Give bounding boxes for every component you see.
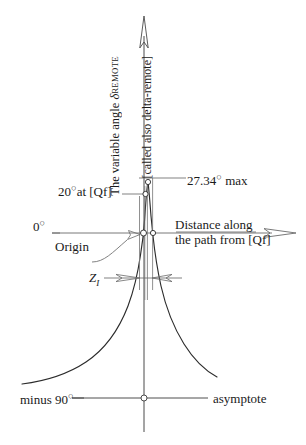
at-qf-value-number: 20 (58, 184, 71, 199)
delta-remote-curve-group (22, 182, 217, 384)
curve-rising-branch (22, 182, 148, 384)
zero-degree-label: 0○ (33, 218, 45, 235)
at-qf-marker-group (122, 191, 148, 196)
y-axis-alt-title: [called also delta-remote] (141, 56, 154, 179)
asymptote-axis-intersection-marker (141, 395, 147, 401)
at-qf-point-marker (143, 191, 148, 196)
asymptote-group (72, 395, 208, 401)
peak-point-marker (145, 179, 150, 184)
y-axis-title: The variable angle δREMOTE (108, 56, 122, 196)
peak-value-suffix: max (222, 173, 248, 188)
minus-ninety-text: minus 90 (20, 392, 68, 407)
origin-leader-arrowhead-icon (128, 231, 141, 240)
figure-delta-remote-plot: The variable angle δREMOTE [called also … (0, 0, 306, 445)
origin-leader-line (92, 240, 127, 262)
degree-icon: ○ (40, 218, 46, 228)
at-qf-value-suffix: at [Qf] (77, 184, 112, 199)
zero-crossing-point-marker (150, 230, 155, 235)
peak-value-number: 27.34 (187, 173, 216, 188)
degree-icon: ○ (68, 391, 74, 401)
y-axis-title-text: The variable angle (108, 100, 122, 196)
minus-ninety-label: minus 90○ (20, 391, 74, 408)
y-axis-title-subscript: REMOTE (110, 56, 120, 94)
origin-markers-group (92, 230, 156, 262)
at-qf-value-label: 20○at [Qf] (58, 183, 112, 200)
origin-point-marker (141, 230, 147, 236)
x-axis-title: Distance alongthe path from [Qf] (175, 218, 271, 247)
origin-label: Origin (55, 240, 89, 255)
x-axis-title-line1: Distance along (175, 217, 253, 232)
zi-dimension-label: ZI (89, 271, 99, 288)
zi-subscript: I (96, 278, 99, 288)
asymptote-label: asymptote (213, 392, 266, 407)
text-leader-lines-group (52, 232, 256, 398)
peak-marker-group (139, 178, 186, 185)
x-axis-title-line2: the path from [Qf] (175, 232, 271, 247)
delta-symbol: δ (108, 94, 122, 100)
zi-dimension-group (104, 274, 182, 281)
peak-value-label: 27.34○ max (187, 172, 248, 189)
